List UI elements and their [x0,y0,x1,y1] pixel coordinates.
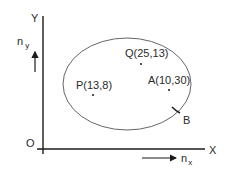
nx-label: nx [181,152,192,167]
ny-label-sub: y [25,41,29,50]
x-axis-label: X [209,144,217,156]
boundary-label: B [183,114,190,126]
point-a-label: A(10,30) [148,74,190,86]
diagram-canvas: Y X O ny nx B P(13,8) Q(25,13) A(10,30) [0,0,227,177]
point-q-label: Q(25,13) [125,47,168,59]
y-axis-label: Y [31,12,39,24]
point-p-dot [92,94,94,96]
origin-label: O [26,137,35,149]
ny-label-base: n [17,35,23,47]
nx-label-base: n [181,152,187,164]
point-q-dot [140,63,142,65]
ny-label: ny [17,35,29,50]
boundary-tick-icon [172,107,180,113]
nx-label-sub: x [188,158,192,167]
point-a-dot [168,89,170,91]
point-p-label: P(13,8) [76,79,112,91]
